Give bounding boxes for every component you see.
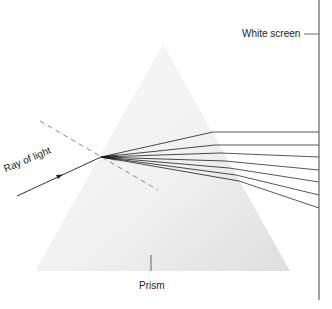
- emergent-ray: [236, 175, 319, 195]
- emergent-ray: [229, 168, 319, 182]
- emergent-ray: [225, 161, 319, 170]
- arrow-icon: [56, 175, 63, 180]
- emergent-ray: [220, 153, 319, 157]
- prism: [35, 44, 290, 271]
- white-screen-label: White screen: [242, 28, 300, 39]
- prism-label: Prism: [139, 280, 165, 291]
